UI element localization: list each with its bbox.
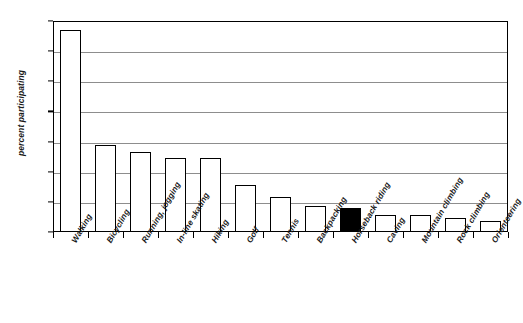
x-tick-mark (158, 232, 159, 238)
x-tick-mark (438, 232, 439, 238)
x-tick-mark (508, 232, 509, 238)
bars-container (53, 21, 508, 232)
x-tick-mark (228, 232, 229, 238)
x-tick-mark (333, 232, 334, 238)
x-tick-mark (263, 232, 264, 238)
bar (130, 152, 151, 232)
x-tick-mark (123, 232, 124, 238)
x-tick-mark (193, 232, 194, 238)
bar (95, 145, 116, 232)
x-tick-mark (403, 232, 404, 238)
x-tick-mark (88, 232, 89, 238)
y-axis-title: percent participating (14, 8, 28, 218)
x-tick-mark (473, 232, 474, 238)
x-tick-mark (368, 232, 369, 238)
x-tick-mark (298, 232, 299, 238)
x-tick-mark (53, 232, 54, 238)
bar (60, 30, 81, 232)
